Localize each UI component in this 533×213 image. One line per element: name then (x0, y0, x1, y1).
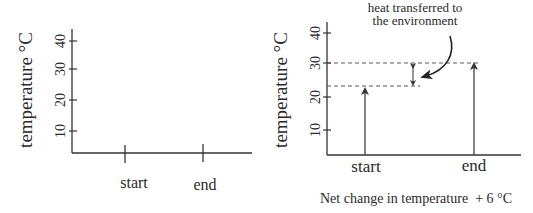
annotation-curved-arrow (426, 36, 452, 76)
right-tick-label-20: 20 (308, 90, 323, 104)
left-tick-label-40: 40 (53, 34, 68, 48)
left-start-label: start (120, 174, 148, 191)
right-end-label: end (462, 156, 487, 175)
left-y-axis-label: temperature °C (15, 32, 36, 148)
annotation-line-2: the environment (373, 13, 458, 28)
left-chart: temperature °C 40 30 20 10 start end (15, 29, 252, 193)
left-end-label: end (193, 176, 216, 193)
left-tick-label-20: 20 (53, 93, 68, 107)
right-chart: temperature °C 40 30 20 10 heat transfer… (270, 0, 521, 206)
right-start-label: start (351, 157, 381, 176)
right-tick-label-30: 30 (308, 56, 323, 70)
right-y-axis-label: temperature °C (270, 32, 291, 148)
net-change-value: + 6 °C (475, 191, 512, 206)
left-tick-label-10: 10 (53, 124, 68, 138)
left-tick-label-30: 30 (53, 62, 68, 76)
right-tick-label-10: 10 (308, 123, 323, 137)
right-tick-label-40: 40 (308, 26, 323, 40)
diagram: temperature °C 40 30 20 10 start end tem… (0, 0, 533, 213)
net-change-caption: Net change in temperature (320, 191, 468, 206)
